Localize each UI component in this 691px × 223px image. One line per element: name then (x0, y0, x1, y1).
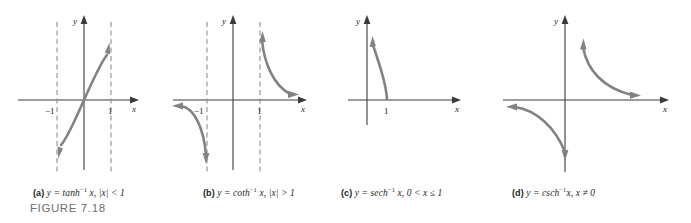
x-axis (18, 97, 139, 104)
caption-b-letter: (b) (203, 188, 215, 198)
tick-label-pos1: 1 (108, 106, 113, 116)
caption-c: (c) y = sech−1 x, 0 < x ≤ 1 (341, 186, 442, 198)
x-axis (503, 97, 669, 104)
tick-label-neg1: −1 (194, 106, 204, 116)
y-axis (230, 15, 237, 170)
x-axis (173, 97, 307, 104)
caption-d-rhs: x, x ≠ 0 (566, 188, 595, 198)
tick-label-pos1: 1 (257, 106, 262, 116)
caption-c-rhs: x, 0 < x ≤ 1 (395, 188, 442, 198)
y-axis-label: y (72, 16, 77, 26)
panel-a-tanh-inverse: y x −1 1 (0, 0, 165, 180)
caption-b: (b) y = coth−1 x, |x| > 1 (203, 186, 295, 198)
y-axis-label: y (221, 16, 226, 26)
x-axis-label: x (662, 104, 667, 114)
caption-d: (d) y = csch−1x, x ≠ 0 (512, 186, 595, 198)
panel-d-graph: y x (495, 0, 691, 180)
panel-d-csch-inverse: y x (495, 0, 691, 180)
caption-a: (a) y = tanh−1 x, |x| < 1 (33, 186, 125, 198)
caption-b-rhs: x, |x| > 1 (257, 188, 295, 198)
caption-a-lhs: y = tanh (47, 188, 80, 198)
x-axis (348, 97, 461, 104)
x-axis-label: x (454, 104, 459, 114)
curve-arccsch-left (506, 103, 568, 161)
tick-label-neg1: −1 (45, 106, 55, 116)
curve-arccoth-right (259, 31, 299, 98)
y-axis-label: y (553, 16, 558, 26)
curve-arccoth-left (172, 102, 209, 164)
caption-c-exponent: −1 (388, 186, 395, 193)
caption-a-letter: (a) (33, 188, 44, 198)
caption-a-exponent: −1 (80, 186, 87, 193)
caption-b-lhs: y = coth (217, 188, 250, 198)
y-axis-label: y (355, 16, 360, 26)
panel-b-coth-inverse: y x −1 1 (165, 0, 330, 180)
tick-label-pos1: 1 (384, 106, 389, 116)
panel-a-graph: y x −1 1 (0, 0, 165, 180)
panel-c-graph: y x 1 (330, 0, 495, 180)
panel-b-graph: y x −1 1 (165, 0, 330, 180)
caption-a-rhs: x, |x| < 1 (87, 188, 125, 198)
caption-c-lhs: y = sech (355, 188, 388, 198)
x-axis-label: x (300, 104, 305, 114)
y-axis (364, 15, 371, 125)
caption-c-letter: (c) (341, 188, 352, 198)
figure-number-label: FIGURE 7.18 (30, 202, 106, 214)
caption-d-letter: (d) (512, 188, 524, 198)
caption-d-lhs: y = csch (526, 188, 559, 198)
curve-arcsech (370, 36, 388, 99)
curve-arccsch-right (580, 39, 641, 99)
x-axis-label: x (131, 104, 136, 114)
panel-c-sech-inverse: y x 1 (330, 0, 495, 180)
figure-7-18: y x −1 1 (0, 0, 691, 223)
caption-b-exponent: −1 (250, 186, 257, 193)
